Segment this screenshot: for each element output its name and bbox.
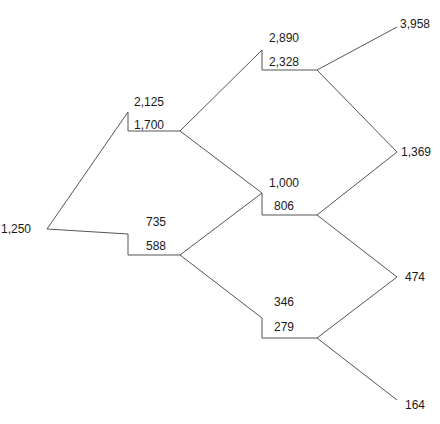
node-up-lower: 1,700 <box>134 118 164 132</box>
branch-upup-t1 <box>317 27 397 70</box>
node-downdown-lower: 279 <box>274 320 294 334</box>
terminal-1: 3,958 <box>400 17 430 31</box>
branch-updown-t3 <box>317 215 397 277</box>
terminal-3: 474 <box>405 270 425 284</box>
node-updown-lower: 806 <box>274 199 294 213</box>
branch-updown-t2 <box>317 152 397 215</box>
branch-downdown-t4 <box>317 338 397 400</box>
branch-downdown-t3 <box>317 277 397 338</box>
node-upup-lower: 2,328 <box>269 55 299 69</box>
branch-down-downdown <box>180 255 317 338</box>
node-down-lower: 588 <box>146 239 166 253</box>
terminal-4: 164 <box>405 398 425 412</box>
node-up-upper: 2,125 <box>134 95 164 109</box>
node-upup-upper: 2,890 <box>269 31 299 45</box>
tree-lines <box>0 0 440 424</box>
root-value: 1,250 <box>1 222 31 236</box>
branch-down-updown <box>180 193 262 255</box>
branch-upup-t2 <box>317 70 397 152</box>
terminal-2: 1,369 <box>401 145 431 159</box>
branch-up-updown <box>180 131 317 215</box>
node-downdown-upper: 346 <box>274 295 294 309</box>
node-updown-upper: 1,000 <box>269 176 299 190</box>
node-down-upper: 735 <box>146 215 166 229</box>
